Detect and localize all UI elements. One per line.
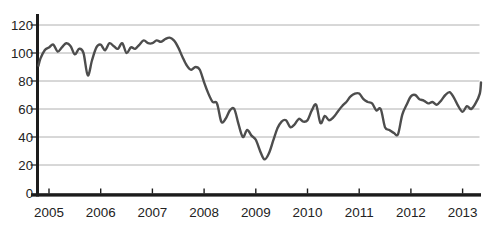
x-tick-label-2013: 2013 <box>448 205 478 220</box>
y-axis-line <box>36 14 39 197</box>
x-tick-label-2007: 2007 <box>138 205 168 220</box>
x-axis-line <box>31 193 481 196</box>
line-chart: 0204060801001202005200620072008200920102… <box>0 0 497 225</box>
data-line-series <box>39 38 482 160</box>
x-tick-label-2005: 2005 <box>34 205 64 220</box>
y-tick-label-100: 100 <box>11 46 33 61</box>
x-tick-label-2009: 2009 <box>241 205 271 220</box>
y-tick-label-80: 80 <box>18 74 33 89</box>
y-tick-label-20: 20 <box>18 158 33 173</box>
y-tick-label-40: 40 <box>18 130 33 145</box>
y-tick-label-60: 60 <box>18 102 33 117</box>
y-tick-label-120: 120 <box>11 18 33 33</box>
x-tick-label-2011: 2011 <box>345 205 374 220</box>
x-tick-label-2010: 2010 <box>293 205 323 220</box>
line-chart-figure: 0204060801001202005200620072008200920102… <box>0 0 497 225</box>
x-tick-label-2012: 2012 <box>396 205 426 220</box>
x-tick-label-2006: 2006 <box>86 205 116 220</box>
x-tick-label-2008: 2008 <box>189 205 219 220</box>
y-tick-label-0: 0 <box>26 186 33 201</box>
